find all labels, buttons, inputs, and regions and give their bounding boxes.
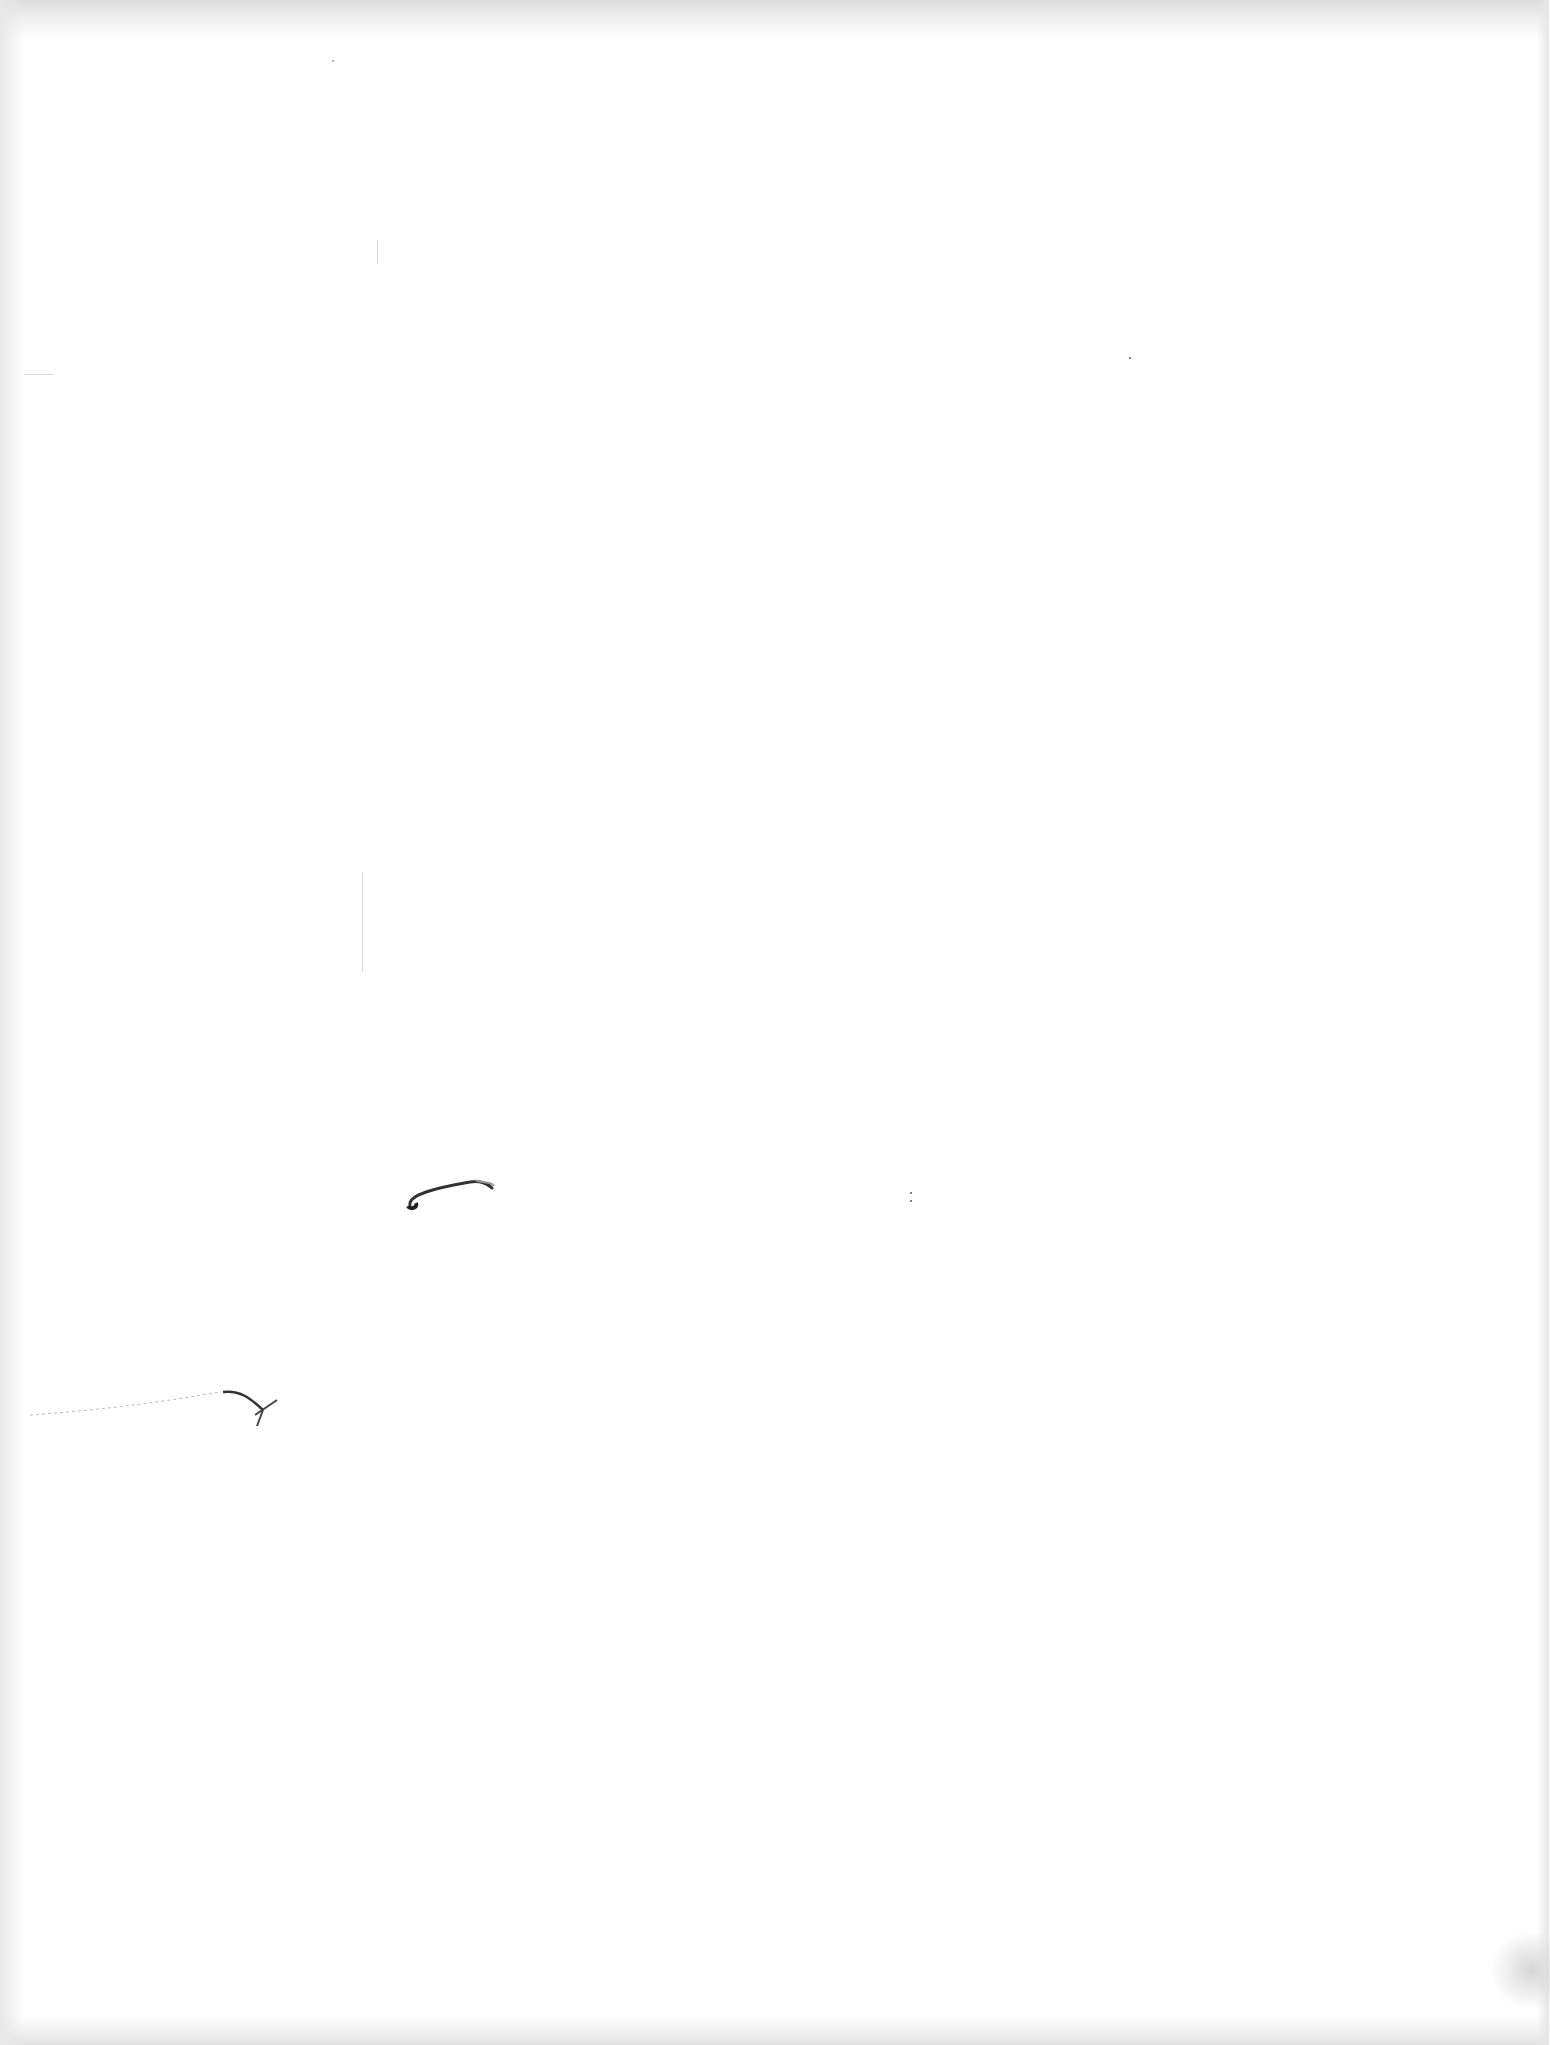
pen-stroke-mark: [400, 1170, 500, 1215]
speck-mark: [910, 1192, 912, 1194]
faint-vertical-mark: [377, 240, 378, 264]
speck-mark: [332, 60, 334, 62]
page-corner-curl: [1490, 1930, 1550, 2010]
faint-horizontal-mark: [24, 374, 54, 375]
pen-arrow-mark: [25, 1370, 285, 1430]
scan-edge-left: [0, 0, 24, 2045]
faint-vertical-line: [362, 872, 363, 972]
scan-edge-right: [1537, 0, 1549, 2045]
scan-edge-bottom: [0, 2015, 1549, 2045]
scan-edge-top: [0, 0, 1549, 40]
speck-mark: [1129, 357, 1131, 359]
speck-mark: [910, 1200, 912, 1202]
